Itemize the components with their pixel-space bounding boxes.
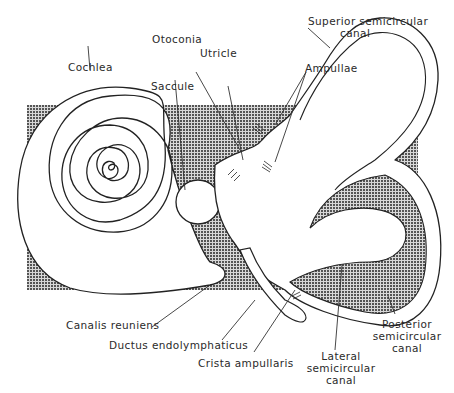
- label-cochlea: Cochlea: [68, 61, 113, 73]
- label-ductus-endolymphaticus: Ductus endolymphaticus: [109, 339, 248, 351]
- label-utricle: Utricle: [200, 47, 237, 59]
- label-superior-semicircular-canal: Superior semicircular canal: [308, 15, 428, 39]
- label-canalis-reuniens: Canalis reuniens: [66, 319, 159, 331]
- label-ampullae: Ampullae: [305, 62, 358, 74]
- label-otoconia: Otoconia: [152, 33, 202, 45]
- inner-ear-diagram: Superior semicircular canal Otoconia Utr…: [0, 0, 454, 393]
- label-line: canal: [308, 27, 428, 39]
- label-lateral-semicircular-canal: Lateral semicircular canal: [305, 350, 377, 386]
- label-posterior-semicircular-canal: Posterior semicircular canal: [368, 318, 446, 354]
- label-line: canal: [368, 342, 446, 354]
- label-line: Lateral: [305, 350, 377, 362]
- label-line: semicircular: [368, 330, 446, 342]
- label-line: Posterior: [368, 318, 446, 330]
- saccule: [176, 180, 220, 224]
- label-line: semicircular: [305, 362, 377, 374]
- label-line: canal: [305, 374, 377, 386]
- label-saccule: Saccule: [151, 80, 194, 92]
- label-crista-ampullaris: Crista ampullaris: [198, 357, 294, 369]
- label-line: Superior semicircular: [308, 15, 428, 27]
